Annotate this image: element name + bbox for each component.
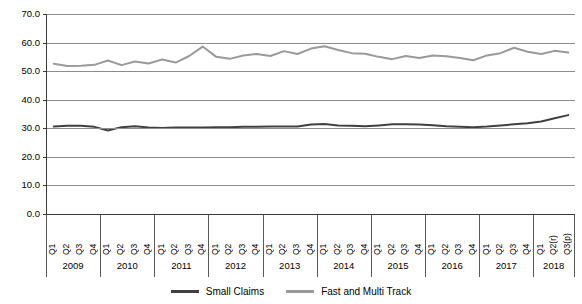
x-axis-quarter-label: Q4 — [88, 215, 99, 255]
year-separator — [533, 215, 534, 277]
gridline — [47, 71, 575, 72]
year-separator — [154, 215, 155, 277]
x-axis-quarter-label: Q1 — [426, 215, 437, 255]
x-axis-quarter-label: Q4 — [467, 215, 478, 255]
gridline — [47, 14, 575, 15]
x-axis-quarter-label: Q1 — [318, 215, 329, 255]
legend-item: Fast and Multi Track — [286, 286, 411, 297]
year-separator — [317, 215, 318, 277]
y-axis-tick-label: 70.0 — [22, 9, 41, 19]
x-axis-quarter-label: Q2 — [494, 215, 505, 255]
x-axis-quarter-label: Q1 — [481, 215, 492, 255]
y-axis-tick-label: 20.0 — [22, 152, 41, 162]
x-axis-quarter-label: Q2 — [223, 215, 234, 255]
year-separator — [574, 215, 575, 277]
x-axis-quarter-label: Q1 — [372, 215, 383, 255]
x-axis-quarter-label: Q3 — [183, 215, 194, 255]
gridline — [47, 100, 575, 101]
x-axis-quarter-label: Q3 — [237, 215, 248, 255]
x-axis-quarter-label: Q3 — [399, 215, 410, 255]
x-axis-quarter-label: Q3 — [345, 215, 356, 255]
x-axis-year-label: 2013 — [263, 260, 317, 271]
x-axis-quarter-label: Q2 — [169, 215, 180, 255]
x-axis-quarter-label: Q4 — [359, 215, 370, 255]
plot-area-wrapper: 70.060.050.040.030.020.010.00.0 — [0, 0, 582, 232]
x-axis-quarter-label: Q4 — [521, 215, 532, 255]
y-axis-tick-label: 60.0 — [22, 38, 41, 48]
x-axis-quarter-label: Q3 — [291, 215, 302, 255]
x-axis-year-label: 2016 — [425, 260, 479, 271]
y-axis-tick-label: 30.0 — [22, 123, 41, 133]
x-axis-quarter-label: Q1 — [101, 215, 112, 255]
y-axis-tick-label: 40.0 — [22, 95, 41, 105]
y-axis-tick-label: 0.0 — [27, 209, 40, 219]
year-separator — [371, 215, 372, 277]
x-axis-year-label: 2011 — [154, 260, 208, 271]
x-axis-quarter-label: Q4 — [250, 215, 261, 255]
year-separator — [425, 215, 426, 277]
y-axis: 70.060.050.040.030.020.010.00.0 — [0, 0, 44, 232]
x-axis-quarter-label: Q2 — [277, 215, 288, 255]
legend-label: Fast and Multi Track — [321, 286, 411, 297]
x-axis-quarter-label: Q1 — [535, 215, 546, 255]
x-axis-quarter-label: Q2 — [61, 215, 72, 255]
plot-area — [46, 14, 575, 214]
x-axis-year-label: 2009 — [46, 260, 100, 271]
legend-color-swatch — [171, 290, 199, 293]
x-axis-quarter-label: Q2 — [115, 215, 126, 255]
x-axis-quarter-label: Q1 — [210, 215, 221, 255]
x-axis-quarter-label: Q1 — [264, 215, 275, 255]
x-axis-year-label: 2010 — [100, 260, 154, 271]
gridline — [47, 157, 575, 158]
x-axis-quarter-label: Q3 — [129, 215, 140, 255]
x-axis-quarter-label: Q2 — [386, 215, 397, 255]
y-axis-tick-label: 10.0 — [22, 180, 41, 190]
series-layer — [47, 14, 575, 214]
gridline — [47, 43, 575, 44]
x-axis-year-label: 2014 — [317, 260, 371, 271]
legend-label: Small Claims — [206, 286, 264, 297]
year-separator — [46, 215, 47, 277]
year-separator — [208, 215, 209, 277]
series-line — [54, 46, 568, 66]
y-axis-tick-label: 50.0 — [22, 66, 41, 76]
x-axis-year-label: 2015 — [371, 260, 425, 271]
year-separator — [479, 215, 480, 277]
year-separator — [100, 215, 101, 277]
legend-item: Small Claims — [171, 286, 264, 297]
x-axis-quarter-label: Q4 — [196, 215, 207, 255]
x-axis-quarter-label: Q2(r) — [548, 215, 559, 255]
year-separator — [263, 215, 264, 277]
year-label-row: 2009201020112012201320142015201620172018 — [46, 255, 574, 277]
x-axis: Q1Q2Q3Q4Q1Q2Q3Q4Q1Q2Q3Q4Q1Q2Q3Q4Q1Q2Q3Q4… — [46, 215, 574, 277]
x-axis-quarter-label: Q3 — [508, 215, 519, 255]
chart-figure: 70.060.050.040.030.020.010.00.0 Q1Q2Q3Q4… — [0, 0, 582, 304]
x-axis-quarter-label: Q3 — [74, 215, 85, 255]
x-axis-quarter-label: Q4 — [142, 215, 153, 255]
chart-legend: Small ClaimsFast and Multi Track — [0, 281, 582, 301]
x-axis-quarter-label: Q2 — [440, 215, 451, 255]
x-axis-quarter-label: Q1 — [47, 215, 58, 255]
x-axis-quarter-label: Q4 — [305, 215, 316, 255]
x-axis-year-label: 2018 — [533, 260, 574, 271]
x-axis-quarter-label: Q3 — [453, 215, 464, 255]
x-axis-quarter-label: Q4 — [413, 215, 424, 255]
x-axis-year-label: 2017 — [479, 260, 533, 271]
x-axis-year-label: 2012 — [208, 260, 262, 271]
x-axis-quarter-label: Q1 — [156, 215, 167, 255]
gridline — [47, 185, 575, 186]
legend-color-swatch — [286, 290, 314, 293]
x-axis-quarter-label: Q2 — [332, 215, 343, 255]
gridline — [47, 128, 575, 129]
x-axis-quarter-label: Q3(p) — [562, 215, 573, 255]
quarter-label-row: Q1Q2Q3Q4Q1Q2Q3Q4Q1Q2Q3Q4Q1Q2Q3Q4Q1Q2Q3Q4… — [46, 215, 574, 255]
